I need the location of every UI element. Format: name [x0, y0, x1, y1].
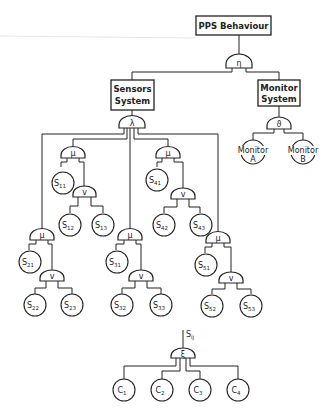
- theta-gate-label: ϑ: [277, 120, 282, 129]
- sensor-group-3: μ S31 v S32 S33: [106, 229, 172, 317]
- monitor-a-line2: A: [250, 155, 256, 164]
- v-gate-label: v: [139, 272, 144, 281]
- v-gate-label: v: [181, 190, 186, 199]
- pps-behaviour-box: PPS Behaviour: [196, 16, 271, 35]
- sensors-system-box: Sensors System: [111, 80, 154, 110]
- xi-gate-label: ξ: [181, 350, 185, 359]
- eta-gate-label: η: [236, 59, 241, 68]
- pps-behaviour-label: PPS Behaviour: [198, 21, 269, 31]
- scan-artifact: [0, 36, 196, 38]
- sensor-group-2: μ S21 v S22 S23: [19, 229, 83, 317]
- lambda-gate: λ: [119, 116, 145, 129]
- sij-label: Sij: [186, 330, 195, 341]
- mu-gate-label: μ: [70, 149, 75, 158]
- mu-gate-label: μ: [165, 149, 170, 158]
- monitor-b-node: Monitor B: [288, 140, 319, 164]
- monitor-label-line1: Monitor: [260, 83, 298, 93]
- mu-gate-label: μ: [127, 231, 132, 240]
- sensors-label-line1: Sensors: [113, 84, 151, 94]
- mu-gate-label: μ: [39, 231, 44, 240]
- monitor-a-node: Monitor A: [238, 140, 269, 164]
- lambda-gate-label: λ: [130, 119, 135, 128]
- mu-gate-label: μ: [215, 234, 220, 243]
- v-gate-label: v: [229, 274, 234, 283]
- sensor-group-1: μ S11 v S12 S13: [52, 147, 114, 237]
- eta-gate: η: [226, 54, 252, 68]
- monitor-label-line2: System: [261, 94, 297, 104]
- monitor-a-line1: Monitor: [238, 146, 269, 155]
- fault-tree-diagram: PPS Behaviour η Sensors System Monitor S…: [0, 0, 329, 416]
- sensors-label-line2: System: [115, 96, 151, 106]
- monitor-system-box: Monitor System: [258, 80, 300, 106]
- v-gate-label: v: [50, 272, 55, 281]
- monitor-b-line2: B: [300, 155, 306, 164]
- v-gate-label: v: [82, 188, 87, 197]
- component-tree: Sij ξ C1 C2 C3 C4: [113, 330, 249, 401]
- sensor-group-4: μ S41 v S42 S43: [146, 147, 212, 237]
- sensor-group-5: μ S51 v S52 S53: [195, 232, 262, 318]
- theta-gate: ϑ: [267, 117, 291, 129]
- monitor-b-line1: Monitor: [288, 146, 319, 155]
